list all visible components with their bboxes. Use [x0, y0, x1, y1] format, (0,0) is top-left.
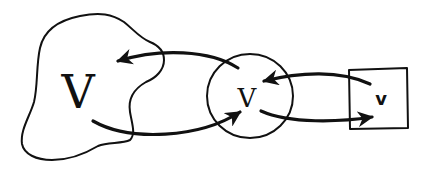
arrow-square-to-circle	[264, 74, 370, 84]
blob-label: V	[61, 69, 94, 115]
square-label: v	[375, 90, 387, 108]
arrow-circle-to-square	[261, 111, 372, 121]
arrow-blob-to-circle	[93, 112, 240, 134]
circle-label: v	[238, 85, 257, 111]
